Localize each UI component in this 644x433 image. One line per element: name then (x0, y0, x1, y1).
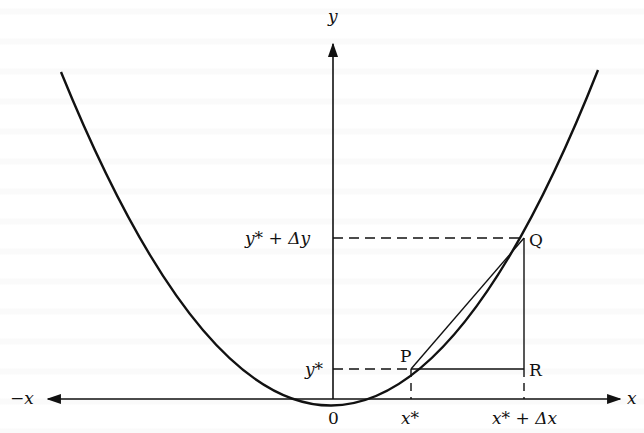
y-star-plus-dy-label: y* + Δy (244, 228, 310, 248)
origin-label: 0 (328, 408, 339, 428)
secant-pq (411, 238, 524, 369)
x-star-label: x* (401, 408, 420, 428)
derivative-diagram: y x −x 0 x* x* + Δx y* y* + Δy P Q R (0, 0, 644, 433)
x-axis-label: x (627, 388, 637, 408)
y-star-label: y* (304, 359, 324, 379)
y-axis-label: y (327, 6, 338, 26)
negative-x-axis-label: −x (10, 388, 34, 408)
point-p-label: P (400, 346, 411, 366)
x-star-plus-dx-label: x* + Δx (492, 408, 557, 428)
point-q-label: Q (529, 230, 543, 250)
point-r-label: R (529, 360, 543, 380)
